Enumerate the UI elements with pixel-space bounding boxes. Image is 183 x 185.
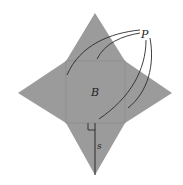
label-p: P bbox=[140, 28, 149, 41]
label-b: B bbox=[90, 86, 99, 99]
label-s: s bbox=[97, 141, 102, 151]
pyramid-net-diagram: P B s bbox=[0, 0, 183, 185]
